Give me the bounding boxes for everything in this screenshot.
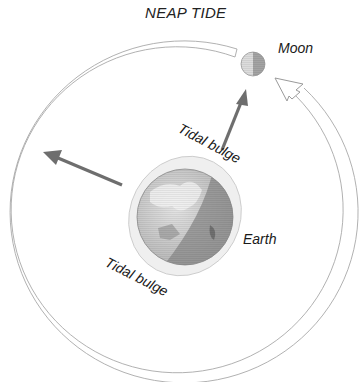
- moon-label: Moon: [278, 40, 313, 56]
- earth-label: Earth: [243, 231, 276, 247]
- diagram-title: NEAP TIDE: [145, 4, 226, 21]
- diagram-canvas: [0, 0, 361, 382]
- moon-icon: [241, 50, 267, 78]
- arrow-toward-sun-icon: [43, 150, 122, 185]
- neap-tide-diagram: NEAP TIDE Moon Earth Tidal bulge Tidal b…: [0, 0, 361, 382]
- orbit-direction-arrowhead-icon: [275, 78, 303, 101]
- arrow-toward-moon-icon: [222, 89, 248, 150]
